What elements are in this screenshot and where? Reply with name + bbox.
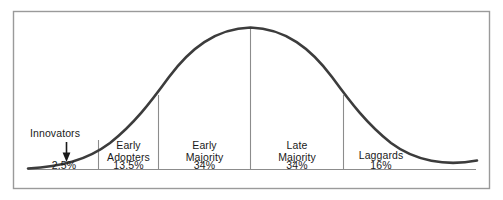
- segment-percent-laggards: 16%: [344, 159, 418, 171]
- callout-label-innovators: Innovators: [30, 127, 80, 139]
- diffusion-of-innovation-figure: Innovators 2.5% Early Adopters 13.5% Ear…: [0, 0, 503, 200]
- segment-percent-innovators: 2.5%: [31, 159, 97, 171]
- segment-percent-early-adopters: 13.5%: [99, 159, 158, 171]
- segment-percent-early-majority: 34%: [159, 159, 250, 171]
- segment-percent-late-majority: 34%: [251, 159, 343, 171]
